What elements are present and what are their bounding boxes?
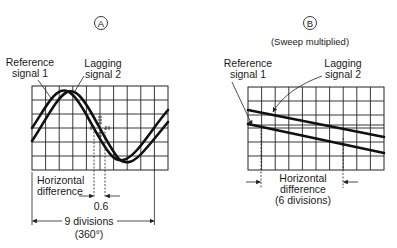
svg-text:B: B [307,18,313,29]
panel-b-lagging-leader [273,76,322,112]
phase-measurement-diagram: A [0,0,397,248]
panel-a-lagging-label-line2: signal 2 [85,68,121,80]
panel-a-reference-label-line2: signal 1 [12,67,48,79]
panel-a-difference-value: 0.6 [94,200,109,212]
panel-b-horizontal-label-line3: (6 divisions) [275,194,331,206]
panel-a-divisions-label: 9 divisions [64,215,113,227]
panel-a-reference-leader [38,80,51,98]
panel-b-marker: B [304,17,317,30]
panel-b: B (Sweep multiplied) Reference signal 1 … [224,17,384,207]
panel-a-horizontal-label-line2: difference [37,185,83,197]
panel-b-reference-label-line2: signal 1 [230,68,266,80]
panel-b-subtitle: (Sweep multiplied) [271,36,349,47]
panel-a-marker: A [95,17,108,30]
panel-a: A [6,17,168,241]
panel-a-degrees-label: (360°) [75,228,104,240]
svg-text:A: A [98,18,105,29]
panel-b-reference-leader [232,82,252,125]
panel-a-lagging-leader [75,76,84,91]
panel-b-lagging-label-line2: signal 2 [325,68,361,80]
